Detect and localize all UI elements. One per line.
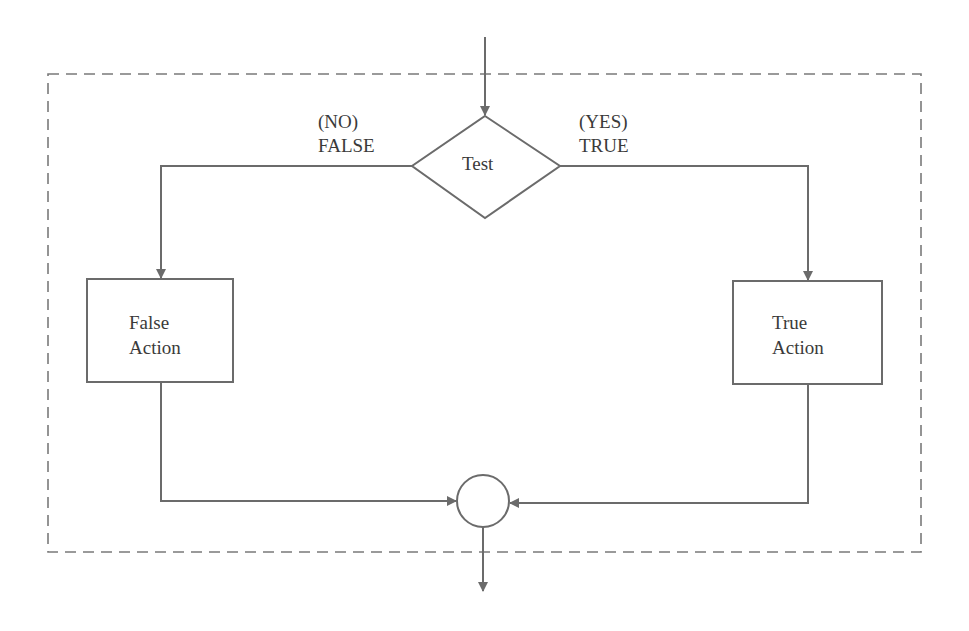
true-branch-label: (YES) TRUE [579,110,629,158]
false-branch-label: (NO) FALSE [318,110,375,158]
true-branch-line [560,166,808,280]
decision-label: Test [462,152,493,176]
true-action-label: True Action [772,310,824,360]
junction-connector [457,475,509,527]
false-action-line1: False [129,310,181,335]
false-return-line [161,382,456,501]
false-action-line2: Action [129,335,181,360]
false-branch-line [161,166,412,278]
false-action-label: False Action [129,310,181,360]
false-branch-no: (NO) [318,110,375,134]
true-branch-true: TRUE [579,134,629,158]
true-action-line2: Action [772,335,824,360]
true-action-line1: True [772,310,824,335]
false-branch-false: FALSE [318,134,375,158]
true-branch-yes: (YES) [579,110,629,134]
true-return-line [510,384,808,503]
